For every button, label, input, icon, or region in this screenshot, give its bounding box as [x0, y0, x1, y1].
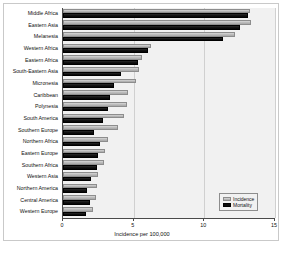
legend-label-incidence: Incidence — [233, 197, 254, 202]
x-tick-label: 15 — [271, 222, 277, 228]
bar-mortality — [63, 95, 110, 100]
y-axis-label: South-Eastern Asia — [13, 70, 58, 75]
y-axis-label: Southern Africa — [22, 163, 58, 168]
y-axis-label: Melanesia — [34, 35, 58, 40]
bar-mortality — [63, 107, 108, 112]
x-tick-label: 5 — [131, 222, 134, 228]
x-tick-label: 0 — [61, 222, 64, 228]
y-axis-label: Northern Africa — [23, 140, 58, 145]
x-tick — [133, 218, 134, 221]
bar-mortality — [63, 153, 98, 158]
bar-mortality — [63, 142, 100, 147]
bar-mortality — [63, 118, 103, 123]
y-axis-label: Central America — [20, 198, 58, 203]
legend-swatch-incidence — [223, 197, 231, 201]
bar-mortality — [63, 200, 90, 205]
y-axis-label: Eastern Asia — [28, 23, 58, 28]
y-axis-category-labels: Middle AfricaEastern AsiaMelanesiaWester… — [0, 8, 60, 218]
bar-mortality — [63, 13, 248, 18]
y-axis-label: South America — [24, 116, 58, 121]
y-axis-label: Polynesia — [35, 105, 58, 110]
bar-rows — [63, 8, 275, 218]
y-axis-label: Middle Africa — [28, 11, 58, 16]
y-axis-label: Northern America — [17, 186, 58, 191]
y-axis-label: Western Asia — [27, 175, 58, 180]
bar-mortality — [63, 212, 86, 217]
bar-mortality — [63, 72, 121, 77]
bar-mortality — [63, 60, 138, 65]
y-axis-label: Caribbean — [34, 93, 58, 98]
legend-swatch-mortality — [223, 203, 231, 207]
bar-mortality — [63, 25, 240, 30]
x-tick — [203, 218, 204, 221]
y-axis-label: Southern Europe — [18, 128, 58, 133]
plot-area — [62, 8, 275, 219]
gridline — [275, 8, 276, 218]
bar-mortality — [63, 177, 91, 182]
legend-label-mortality: Mortality — [233, 203, 252, 208]
bar-mortality — [63, 165, 97, 170]
legend-item-mortality: Mortality — [223, 202, 254, 208]
y-axis-label: Micronesia — [32, 81, 58, 86]
bar-mortality — [63, 130, 94, 135]
x-tick-label: 10 — [200, 222, 206, 228]
bar-mortality — [63, 188, 87, 193]
y-axis-label: Western Africa — [24, 46, 58, 51]
x-axis-title: Incidence per 100,000 — [0, 231, 284, 237]
bar-mortality — [63, 83, 114, 88]
chart-legend: Incidence Mortality — [219, 193, 258, 211]
chart-figure: Middle AfricaEastern AsiaMelanesiaWester… — [0, 0, 284, 255]
bar-mortality — [63, 37, 223, 42]
y-axis-label: Eastern Europe — [21, 151, 58, 156]
y-axis-label: Eastern Africa — [25, 58, 58, 63]
x-tick — [274, 218, 275, 221]
y-axis-label: Western Europe — [20, 210, 58, 215]
bar-mortality — [63, 48, 148, 53]
x-tick — [62, 218, 63, 221]
